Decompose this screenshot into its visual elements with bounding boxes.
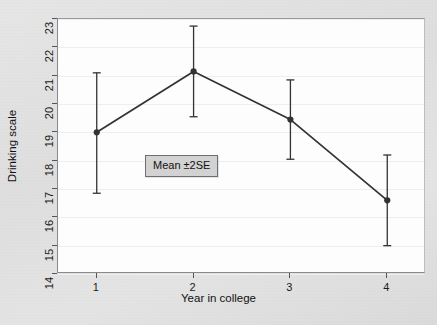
data-point-marker	[190, 68, 196, 74]
x-tick-mark	[289, 273, 290, 278]
y-tick-label: 16	[43, 215, 55, 237]
legend-mean-2se: Mean ±2SE	[145, 155, 218, 177]
y-tick-label: 21	[43, 74, 55, 96]
y-tick-label: 19	[43, 130, 55, 152]
y-tick-label: 22	[43, 45, 55, 67]
y-tick-label: 14	[43, 272, 55, 294]
data-point-marker	[384, 197, 390, 203]
chart-screenshot: Drinking scale 14151617181920212223 1234…	[0, 0, 437, 325]
x-tick-mark	[193, 273, 194, 278]
y-tick-label: 18	[43, 159, 55, 181]
gridline	[58, 274, 424, 275]
y-tick-label: 20	[43, 102, 55, 124]
x-tick-mark	[96, 273, 97, 278]
y-tick-label: 23	[43, 17, 55, 39]
series-layer	[58, 19, 426, 274]
legend-label: Mean ±2SE	[153, 159, 210, 171]
x-axis-title: Year in college	[0, 292, 437, 304]
y-axis-title: Drinking scale	[6, 91, 18, 201]
x-tick-mark	[386, 273, 387, 278]
plot-area	[57, 18, 425, 273]
y-tick-label: 17	[43, 187, 55, 209]
y-tick-label: 15	[43, 244, 55, 266]
data-point-marker	[94, 129, 100, 135]
data-point-marker	[287, 116, 293, 122]
series-line	[97, 71, 388, 200]
